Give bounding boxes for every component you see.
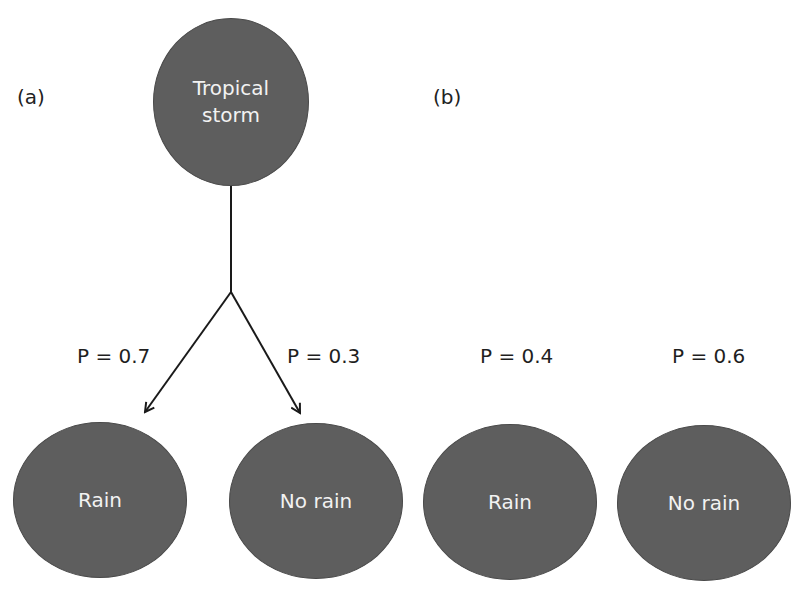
node-rain-a-label: Rain [78, 487, 122, 514]
node-rain-b-label: Rain [488, 489, 532, 516]
node-rain-a: Rain [13, 422, 187, 578]
node-no-rain-b: No rain [617, 425, 791, 581]
node-no-rain-a: No rain [229, 423, 403, 579]
node-rain-b: Rain [423, 424, 597, 580]
arrow-to-rain-a [145, 292, 231, 412]
probability-no-rain-a: P = 0.3 [287, 344, 360, 368]
panel-a-label: (a) [17, 85, 45, 109]
probability-rain-b: P = 0.4 [480, 344, 553, 368]
node-no-rain-b-label: No rain [668, 490, 740, 517]
node-tropical-storm: Tropical storm [153, 18, 309, 186]
probability-no-rain-b: P = 0.6 [672, 344, 745, 368]
panel-b-label: (b) [433, 85, 461, 109]
probability-rain-a: P = 0.7 [77, 344, 150, 368]
node-no-rain-a-label: No rain [280, 488, 352, 515]
probability-diagram: (a) Tropical storm P = 0.7 P = 0.3 Rain … [0, 0, 809, 598]
node-tropical-storm-label: Tropical storm [193, 75, 269, 129]
